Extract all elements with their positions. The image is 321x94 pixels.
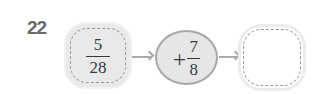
arrow-right-icon — [132, 56, 152, 58]
start-numerator: 5 — [94, 36, 103, 54]
start-value-box: 5 28 — [66, 24, 130, 87]
start-fraction: 5 28 — [66, 36, 130, 77]
fraction-bar — [187, 58, 200, 59]
start-denominator: 28 — [90, 59, 107, 77]
arrow-right-icon — [219, 56, 238, 58]
fraction-bar — [86, 56, 110, 57]
dashed-border — [243, 29, 301, 86]
operation-expression: + 7 8 — [157, 38, 216, 79]
operation-ellipse: + 7 8 — [155, 30, 218, 85]
operation-numerator: 7 — [190, 38, 199, 56]
operation-denominator: 8 — [190, 61, 199, 79]
plus-sign: + — [173, 46, 187, 73]
problem-number: 22 — [27, 17, 46, 39]
operation-fraction: 7 8 — [187, 38, 200, 79]
answer-box[interactable] — [241, 27, 303, 88]
